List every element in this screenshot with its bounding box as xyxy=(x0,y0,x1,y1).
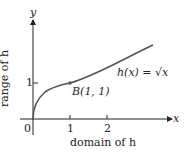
origin-label: 0 xyxy=(24,122,31,135)
y-tick-label-1: 1 xyxy=(26,76,33,89)
point-b-label: B(1, 1) xyxy=(72,85,110,98)
sqrt-function-graph: y x 0 1 2 1 domain of h range of h B(1, … xyxy=(0,0,185,152)
x-axis-label: x xyxy=(173,112,179,125)
y-axis-label: y xyxy=(30,6,36,19)
domain-label: domain of h xyxy=(70,136,136,149)
sqrt-curve xyxy=(33,45,153,119)
x-tick-label-1: 1 xyxy=(67,122,74,135)
function-label: h(x) = √x xyxy=(117,66,168,79)
x-tick-label-2: 2 xyxy=(104,122,111,135)
range-label: range of h xyxy=(0,50,11,107)
